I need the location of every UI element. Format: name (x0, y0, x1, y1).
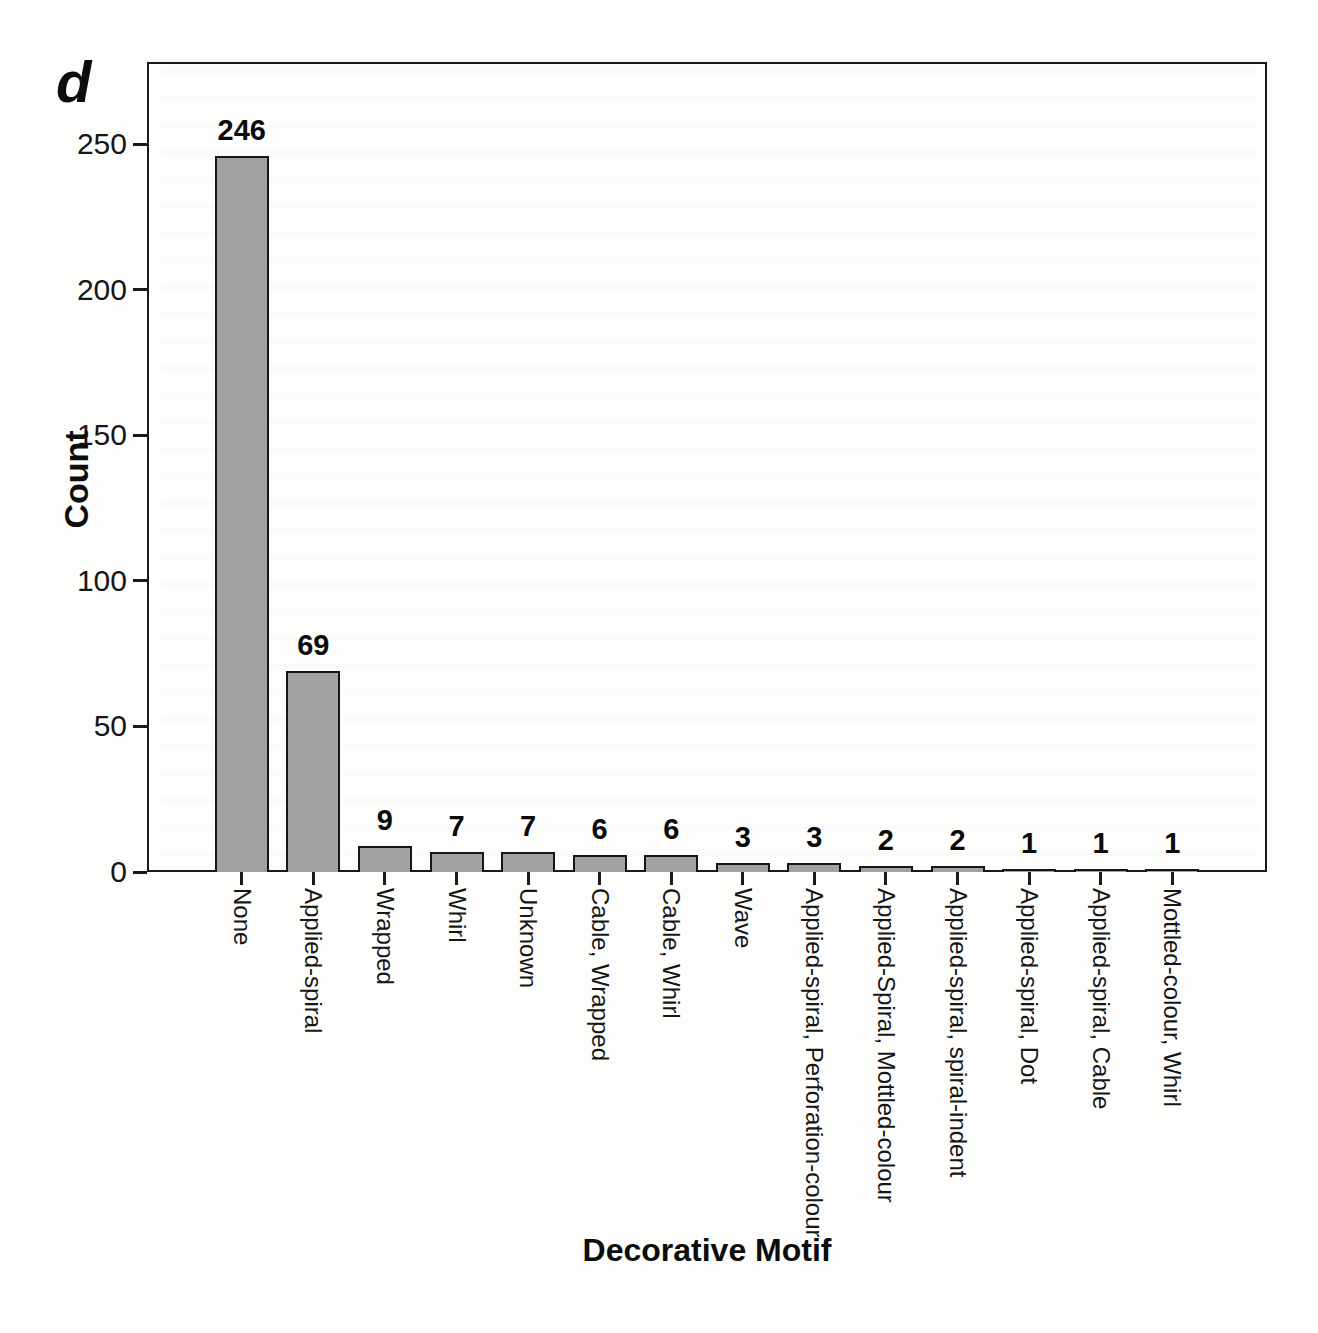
x-axis-title: Decorative Motif (147, 1232, 1267, 1269)
x-category-label: Applied-spiral, Perforation-colour (802, 888, 826, 1238)
x-tick-mark (884, 872, 887, 885)
figure-panel-label: d (56, 48, 91, 115)
bar-value-label: 1 (1112, 827, 1232, 860)
x-tick-mark (1099, 872, 1102, 885)
y-tick-mark (133, 288, 147, 291)
bar (358, 846, 412, 872)
bar (716, 863, 770, 872)
x-category-label: Applied-spiral, Cable (1089, 888, 1113, 1109)
x-category-label: Applied-spiral (301, 888, 325, 1033)
x-category-label: Applied-Spiral, Mottled-colour (874, 888, 898, 1203)
y-tick-label: 200 (47, 273, 127, 307)
bar (430, 852, 484, 872)
bar (215, 156, 269, 872)
x-category-label: None (230, 888, 254, 945)
y-tick-mark (133, 434, 147, 437)
y-tick-label: 250 (47, 127, 127, 161)
y-tick-mark (133, 725, 147, 728)
bar (286, 671, 340, 872)
x-tick-mark (741, 872, 744, 885)
x-category-label: Wave (731, 888, 755, 948)
bar-value-label: 246 (182, 114, 302, 147)
bar (787, 863, 841, 872)
x-tick-mark (956, 872, 959, 885)
x-category-label: Applied-spiral, spiral-indent (946, 888, 970, 1177)
x-category-label: Wrapped (373, 888, 397, 985)
x-tick-mark (312, 872, 315, 885)
y-tick-mark (133, 871, 147, 874)
bar-value-label: 69 (253, 629, 373, 662)
x-tick-mark (455, 872, 458, 885)
x-tick-mark (240, 872, 243, 885)
y-tick-mark (133, 143, 147, 146)
bar (573, 855, 627, 872)
x-tick-mark (1171, 872, 1174, 885)
x-tick-mark (383, 872, 386, 885)
x-tick-mark (1028, 872, 1031, 885)
bar (501, 852, 555, 872)
x-category-label: Cable, Wrapped (588, 888, 612, 1061)
y-tick-mark (133, 579, 147, 582)
x-category-label: Unknown (516, 888, 540, 988)
bar (644, 855, 698, 872)
y-tick-label: 0 (47, 855, 127, 889)
x-category-label: Cable, Whirl (659, 888, 683, 1019)
x-tick-mark (670, 872, 673, 885)
y-tick-label: 50 (47, 709, 127, 743)
x-category-label: Whirl (445, 888, 469, 943)
x-tick-mark (598, 872, 601, 885)
x-category-label: Mottled-colour, Whirl (1160, 888, 1184, 1107)
x-category-label: Applied-spiral, Dot (1017, 888, 1041, 1084)
y-axis-title: Count (57, 400, 96, 560)
x-tick-mark (527, 872, 530, 885)
x-tick-mark (813, 872, 816, 885)
y-tick-label: 100 (47, 564, 127, 598)
